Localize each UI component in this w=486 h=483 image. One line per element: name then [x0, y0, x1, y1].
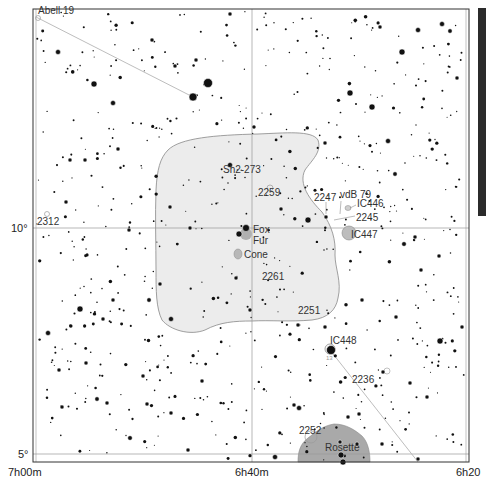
bright-star[interactable] — [64, 200, 68, 204]
bright-star[interactable] — [378, 25, 382, 29]
bright-star[interactable] — [357, 412, 361, 416]
bright-star[interactable] — [236, 231, 242, 237]
star — [392, 106, 395, 109]
bright-star[interactable] — [234, 276, 238, 280]
bright-star[interactable] — [394, 315, 398, 319]
bright-star[interactable] — [128, 436, 133, 441]
bright-star[interactable] — [186, 448, 190, 452]
label-2236[interactable]: 2236 — [352, 374, 375, 385]
bright-star[interactable] — [279, 207, 283, 211]
bright-star[interactable] — [386, 139, 391, 144]
star — [254, 339, 256, 341]
label-2259[interactable]: 2259 — [258, 187, 281, 198]
bright-star[interactable] — [243, 225, 250, 232]
bright-star[interactable] — [425, 395, 429, 399]
bright-star[interactable] — [413, 235, 417, 239]
bright-star[interactable] — [127, 228, 131, 232]
bright-star[interactable] — [84, 361, 88, 365]
label-fox[interactable]: Fox — [253, 224, 270, 235]
bright-star[interactable] — [116, 147, 120, 151]
label-2252[interactable]: 2252 — [299, 425, 322, 436]
bright-star[interactable] — [273, 455, 278, 460]
bright-star[interactable] — [305, 217, 311, 223]
bright-star[interactable] — [393, 172, 397, 176]
bright-star[interactable] — [145, 402, 149, 406]
bright-star[interactable] — [323, 141, 327, 145]
bright-star[interactable] — [402, 242, 407, 247]
bright-star[interactable] — [381, 370, 385, 374]
bright-star[interactable] — [323, 325, 327, 329]
bright-star[interactable] — [111, 298, 115, 302]
bright-star[interactable] — [200, 379, 204, 383]
bright-star[interactable] — [57, 368, 61, 372]
bright-star[interactable] — [95, 397, 99, 401]
bright-star[interactable] — [416, 28, 421, 33]
label-abell-19[interactable]: Abell 19 — [38, 5, 75, 16]
label-rosette[interactable]: Rosette — [325, 442, 360, 453]
bright-star[interactable] — [77, 306, 83, 312]
bright-star[interactable] — [83, 158, 87, 162]
bright-star[interactable] — [141, 374, 145, 378]
bright-star[interactable] — [399, 49, 405, 55]
label-ic448[interactable]: IC448 — [330, 335, 357, 346]
bright-star[interactable] — [437, 254, 441, 258]
label-fur[interactable]: Fur — [253, 235, 269, 246]
star — [153, 220, 155, 222]
label-2247[interactable]: 2247 — [314, 192, 337, 203]
bright-star[interactable] — [346, 415, 350, 419]
bright-star[interactable] — [324, 215, 328, 219]
magnitude-scale-bar[interactable] — [478, 8, 486, 216]
bright-star[interactable] — [46, 331, 51, 336]
bright-star[interactable] — [327, 346, 336, 355]
bright-star[interactable] — [296, 323, 300, 327]
label-2251[interactable]: 2251 — [298, 305, 321, 316]
star — [304, 187, 306, 189]
star-chart[interactable]: Abell 19 2312 Sh2-273 2259 2247 vdB 79 I… — [0, 0, 486, 483]
bright-star[interactable] — [204, 79, 213, 88]
bright-star[interactable] — [347, 90, 353, 96]
bright-star[interactable] — [60, 405, 64, 409]
label-sh2-273[interactable]: Sh2-273 — [223, 164, 261, 175]
bright-star[interactable] — [68, 158, 72, 162]
bright-star[interactable] — [408, 381, 412, 385]
bright-star[interactable] — [292, 403, 296, 407]
bright-star[interactable] — [440, 22, 445, 27]
bright-star[interactable] — [168, 205, 172, 209]
label-2261[interactable]: 2261 — [262, 271, 285, 282]
bright-star[interactable] — [416, 457, 420, 461]
bright-star[interactable] — [169, 411, 173, 415]
star — [428, 138, 431, 141]
bright-star[interactable] — [101, 317, 105, 321]
bright-star[interactable] — [360, 298, 364, 302]
bright-star[interactable] — [150, 38, 154, 42]
bright-star[interactable] — [188, 226, 192, 230]
bright-star[interactable] — [228, 12, 232, 16]
bright-star[interactable] — [91, 81, 97, 87]
bright-star[interactable] — [111, 101, 116, 106]
bright-star[interactable] — [437, 338, 443, 344]
label-cone[interactable]: Cone — [244, 249, 268, 260]
bright-star[interactable] — [158, 282, 162, 286]
bright-star[interactable] — [105, 401, 109, 405]
star — [252, 133, 253, 134]
bright-star[interactable] — [194, 58, 198, 62]
bright-star[interactable] — [173, 64, 177, 68]
bright-star[interactable] — [369, 104, 375, 110]
bright-star[interactable] — [147, 298, 151, 302]
bright-star[interactable] — [380, 442, 384, 446]
bright-star[interactable] — [189, 93, 197, 101]
bright-star[interactable] — [419, 268, 423, 272]
bright-star[interactable] — [448, 29, 452, 33]
label-2312[interactable]: 2312 — [37, 216, 60, 227]
label-ic447[interactable]: IC447 — [351, 229, 378, 240]
bright-star[interactable] — [56, 50, 61, 55]
bright-star[interactable] — [460, 325, 464, 329]
star — [378, 320, 380, 322]
star — [246, 213, 248, 215]
bright-star[interactable] — [455, 76, 459, 80]
bright-star[interactable] — [297, 406, 302, 411]
label-ic446[interactable]: IC446 — [357, 198, 384, 209]
bright-star[interactable] — [169, 317, 174, 322]
label-2245[interactable]: 2245 — [356, 212, 379, 223]
bright-star[interactable] — [248, 308, 252, 312]
